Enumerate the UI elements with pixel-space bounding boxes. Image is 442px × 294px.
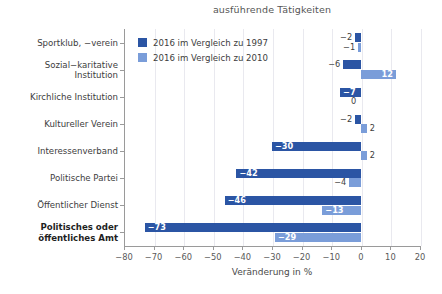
x-tick-label: −50 [204,252,222,262]
y-tick-mark [120,97,124,98]
x-tick-label: −30 [263,252,281,262]
x-tick-mark [154,246,155,250]
legend-item[interactable]: 2016 im Vergleich zu 2010 [138,51,268,64]
y-tick-mark [120,43,124,44]
bar-value-label: 2 [370,124,375,133]
gridline [391,29,392,246]
y-category-label: Sportklub, −verein [37,37,118,48]
x-tick-mark [124,246,125,250]
x-tick-label: −40 [234,252,252,262]
y-category-label: Kultureller Verein [44,119,118,130]
bar [355,115,361,124]
x-tick-mark [213,246,214,250]
x-tick-mark [331,246,332,250]
bar-value-label: −6 [328,60,340,69]
x-tick-mark [183,246,184,250]
x-tick-mark [302,246,303,250]
bar-value-label: −30 [275,142,293,151]
x-tick-label: −80 [115,252,133,262]
y-tick-mark [120,232,124,233]
chart-legend: 2016 im Vergleich zu 19972016 im Verglei… [138,36,268,66]
x-tick-mark [390,246,391,250]
x-tick-label: 10 [385,252,396,262]
bar-value-label: 0 [351,97,356,106]
y-category-label: Politische Partei [50,173,118,184]
bar-value-label: −42 [239,169,257,178]
x-tick-label: 20 [415,252,426,262]
gridline [273,29,274,246]
y-tick-mark [120,151,124,152]
gridline [303,29,304,246]
x-tick-mark [420,246,421,250]
x-axis-title: Veränderung in % [124,267,420,277]
y-category-label: Sozial−karitativeInstitution [45,59,118,80]
bar-value-label: 12 [382,70,393,79]
bar [145,223,361,232]
legend-label: 2016 im Vergleich zu 2010 [153,53,268,63]
y-category-label: Politisches oderöffentliches Amt [38,222,118,243]
legend-label: 2016 im Vergleich zu 1997 [153,38,268,48]
x-tick-mark [361,246,362,250]
x-tick-label: −10 [322,252,340,262]
gridline [362,29,363,246]
bar-value-label: −2 [340,115,352,124]
bar-value-label: −73 [148,223,166,232]
bar [358,43,361,52]
x-tick-mark [242,246,243,250]
y-category-label: Interessenverband [38,146,119,157]
bar [361,151,367,160]
y-tick-mark [120,178,124,179]
bar [343,60,361,69]
y-category-label: Kirchliche Institution [30,92,118,103]
bar [361,124,367,133]
y-tick-mark [120,124,124,125]
bar-value-label: −1 [343,43,355,52]
x-tick-label: −20 [293,252,311,262]
bar [349,178,361,187]
bar-value-label: −4 [334,178,346,187]
y-tick-mark [120,205,124,206]
bar-value-label: −2 [340,33,352,42]
gridline [421,29,422,246]
x-tick-mark [272,246,273,250]
legend-color-swatch [138,38,147,47]
bar-value-label: −13 [325,206,343,215]
bar [355,33,361,42]
bar-value-label: −29 [278,233,296,242]
bar-value-label: −46 [228,196,246,205]
x-tick-label: −60 [174,252,192,262]
legend-color-swatch [138,53,147,62]
x-tick-label: −70 [145,252,163,262]
y-category-label: Öffentlicher Dienst [37,200,118,211]
legend-item[interactable]: 2016 im Vergleich zu 1997 [138,36,268,49]
y-tick-mark [120,70,124,71]
x-tick-label: 0 [358,252,363,262]
bar-value-label: 2 [370,151,375,160]
chart-title: ausführende Tätigkeiten [124,4,420,15]
bar-chart: ausführende Tätigkeiten −80−70−60−50−40−… [0,0,442,294]
